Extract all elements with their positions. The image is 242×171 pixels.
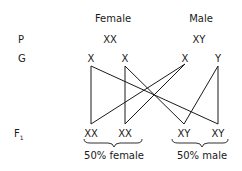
offspring-xy-1: XY xyxy=(178,129,191,139)
male-ratio-label: 50% male xyxy=(177,151,227,161)
female-brace xyxy=(84,139,142,147)
offspring-xx-2: XX xyxy=(118,129,132,139)
offspring-xy-2: XY xyxy=(212,129,225,139)
male-brace xyxy=(172,139,228,147)
cross-lines xyxy=(0,0,242,171)
line-mx-to-xx2 xyxy=(125,64,185,124)
female-ratio-label: 50% female xyxy=(84,151,144,161)
offspring-row-label: F1 xyxy=(14,129,24,143)
offspring-xx-1: XX xyxy=(84,129,98,139)
line-mx-to-xx1 xyxy=(91,64,185,124)
line-y-to-xy1 xyxy=(184,66,218,124)
